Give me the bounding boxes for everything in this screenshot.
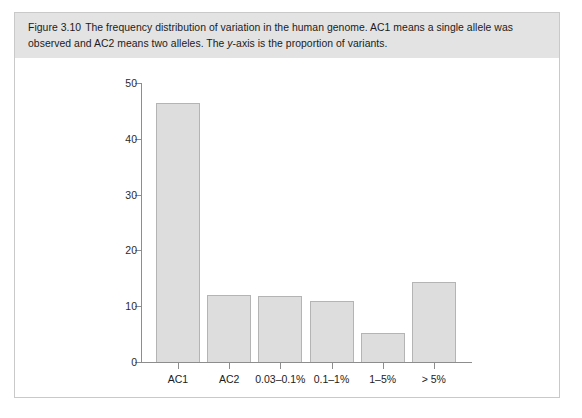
figure-panel: Figure 3.10The frequency distribution of… xyxy=(14,12,560,398)
y-tick-label: 10 xyxy=(125,300,137,312)
bar-chart: 01020304050 AC1AC20.03–0.1%0.1–1%1–5%> 5… xyxy=(15,58,561,398)
x-tick-mark xyxy=(434,363,435,369)
x-tick-label: 0.1–1% xyxy=(314,373,350,385)
y-axis-line xyxy=(141,83,142,362)
bar xyxy=(310,301,354,362)
x-tick-mark xyxy=(178,363,179,369)
x-tick-mark xyxy=(280,363,281,369)
y-tick-label: 40 xyxy=(125,133,137,145)
figure-caption-text: Figure 3.10The frequency distribution of… xyxy=(28,20,546,51)
x-axis-line xyxy=(141,362,472,363)
bar xyxy=(412,282,456,362)
x-tick-label: 1–5% xyxy=(369,373,396,385)
y-tick-label: 50 xyxy=(125,77,137,89)
x-tick-label: > 5% xyxy=(422,373,446,385)
x-tick-label: AC1 xyxy=(168,373,188,385)
y-tick-label: 30 xyxy=(125,189,137,201)
bar xyxy=(156,103,200,362)
bar xyxy=(258,296,302,362)
x-tick-mark xyxy=(383,363,384,369)
bar xyxy=(207,295,251,362)
figure-number: Figure 3.10 xyxy=(28,22,81,33)
caption-line-2b: -axis is the proportion of variants. xyxy=(233,38,388,49)
plot-area: 01020304050 AC1AC20.03–0.1%0.1–1%1–5%> 5… xyxy=(141,83,472,362)
x-tick-mark xyxy=(229,363,230,369)
x-tick-mark xyxy=(332,363,333,369)
x-tick-label: AC2 xyxy=(219,373,239,385)
caption-line-2a: and AC2 means two alleles. The xyxy=(74,38,227,49)
y-tick-label: 0 xyxy=(131,356,137,368)
x-tick-label: 0.03–0.1% xyxy=(255,373,305,385)
figure-caption-band: Figure 3.10The frequency distribution of… xyxy=(15,13,559,58)
y-tick-label: 20 xyxy=(125,244,137,256)
bar xyxy=(361,333,405,362)
